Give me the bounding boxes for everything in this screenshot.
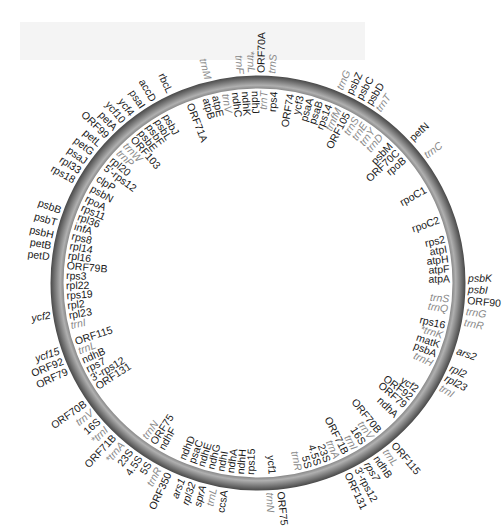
- outer-gene-label: petD: [27, 248, 51, 263]
- inner-gene-label: rpoC1: [397, 184, 428, 208]
- outer-gene-label: ORF75: [275, 491, 290, 526]
- outer-gene-label: rbcL: [156, 71, 176, 95]
- inner-gene-label: rps15: [244, 448, 257, 475]
- outer-gene-label: trnN: [264, 492, 277, 513]
- inner-gene-labels: rps4trnTndhJndhKndhCtrnVatpEatpBORF71Aps…: [66, 89, 450, 475]
- genome-map: trnSORF70A*trnLtrnFtrnMrbcLaccDpsaIycf4y…: [0, 0, 502, 527]
- outer-gene-label: trnC: [421, 139, 444, 161]
- outer-gene-label: ycf2: [29, 309, 51, 324]
- outer-gene-label: ccsA: [214, 489, 229, 513]
- outer-gene-label: trnS: [265, 54, 278, 74]
- outer-gene-label: trnR: [463, 316, 485, 332]
- inner-gene-label: trnS: [430, 291, 450, 305]
- outer-gene-label: trnF: [233, 55, 247, 75]
- outer-gene-label: ars2: [455, 345, 478, 363]
- genome-ring: [57, 82, 459, 484]
- outer-gene-label: petN: [407, 119, 431, 143]
- inner-gene-label: trnI: [69, 316, 87, 331]
- inner-gene-label: rpoC2: [410, 214, 441, 235]
- outer-gene-label: trnM: [197, 57, 214, 81]
- inner-gene-label: ycf1: [265, 455, 278, 475]
